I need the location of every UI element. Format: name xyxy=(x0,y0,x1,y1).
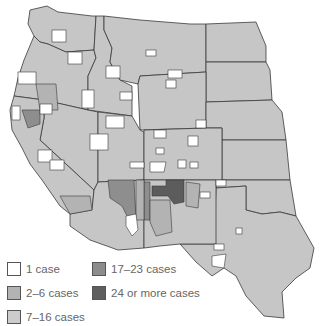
legend-label: 24 or more cases xyxy=(111,287,200,299)
county-1-case xyxy=(18,72,36,84)
legend-label: 17–23 cases xyxy=(111,263,176,275)
county-1-case xyxy=(166,80,176,88)
county-1-case xyxy=(216,180,226,186)
legend-swatch xyxy=(92,286,106,300)
county-1-case xyxy=(68,52,82,64)
legend-swatch xyxy=(7,262,21,276)
county-1-case xyxy=(50,160,64,170)
state-north-dakota xyxy=(206,22,266,62)
county-1-case xyxy=(106,66,120,78)
county-1-case xyxy=(214,244,224,250)
county-1-case xyxy=(200,192,210,198)
legend-label: 1 case xyxy=(26,263,60,275)
legend-item-1-case: 1 case xyxy=(7,262,60,276)
legend-swatch xyxy=(7,286,21,300)
county-1-case xyxy=(178,160,186,168)
legend-label: 7–16 cases xyxy=(26,311,85,323)
choropleth-map xyxy=(0,0,328,326)
county-1-case xyxy=(52,30,66,42)
county-1-case xyxy=(130,162,144,168)
county-2-6 xyxy=(136,180,144,220)
county-1-case xyxy=(190,162,198,168)
legend-swatch xyxy=(7,310,21,324)
county-1-case xyxy=(196,120,206,128)
state-south-dakota xyxy=(206,62,272,102)
county-1-case xyxy=(90,134,108,150)
county-1-case xyxy=(146,50,156,56)
county-1-case xyxy=(156,148,164,154)
legend-swatch xyxy=(92,262,106,276)
county-1-case xyxy=(212,254,226,268)
county-1-case xyxy=(236,228,242,234)
county-1-case xyxy=(168,70,182,78)
county-1-case xyxy=(40,104,52,114)
county-17-23 xyxy=(144,182,150,220)
county-1-case xyxy=(82,90,94,108)
county-1-case xyxy=(12,106,20,120)
legend-item-17-23-cases: 17–23 cases xyxy=(92,262,176,276)
legend-label: 2–6 cases xyxy=(26,287,78,299)
county-1-case xyxy=(120,92,132,100)
legend-item-7-16-cases: 7–16 cases xyxy=(7,310,85,324)
legend-item-2-6-cases: 2–6 cases xyxy=(7,286,78,300)
county-1-case xyxy=(106,116,124,128)
county-2-6 xyxy=(186,182,200,208)
county-1-case xyxy=(154,130,166,138)
county-1-case xyxy=(150,162,166,172)
legend-item-24-plus-cases: 24 or more cases xyxy=(92,286,200,300)
state-kansas xyxy=(222,140,290,180)
county-1-case xyxy=(188,136,198,146)
